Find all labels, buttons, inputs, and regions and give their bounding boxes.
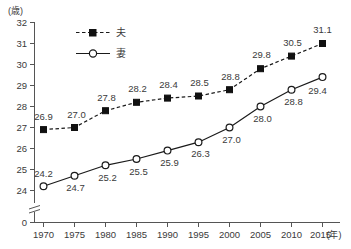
y-tick-label: 27 [16,122,27,133]
y-tick-label: 29 [16,80,27,91]
x-tick-label: 2005 [250,229,271,240]
husband-marker [289,53,295,59]
legend-item-wife[interactable]: 妻 [76,47,126,59]
chart-canvas: (歳) 32 31 30 29 28 [0,0,351,249]
husband-marker [320,41,326,47]
wife-marker [133,156,140,163]
wife-marker [71,172,78,179]
wife-data-label: 25.2 [98,172,117,183]
line-chart: (歳) 32 31 30 29 28 [0,0,351,249]
legend-husband-label: 夫 [116,27,126,38]
y-tick-label: 32 [16,17,27,28]
wife-marker [226,124,233,131]
series-wife: 24.2 24.7 25.2 25.5 25.9 26.3 27.0 28.0 … [34,74,327,193]
y-tick-label: 25 [16,164,27,175]
wife-marker [102,162,109,169]
wife-marker [288,86,295,93]
x-tick-label: 1990 [157,229,178,240]
husband-data-label: 30.5 [283,37,302,48]
wife-data-label: 28.0 [253,113,272,124]
y-axis-ticks [30,23,35,223]
wife-marker [257,103,264,110]
y-axis-tick-labels: 32 31 30 29 28 27 26 25 24 0 [16,17,27,228]
legend-wife-label: 妻 [116,47,126,59]
husband-data-label: 28.4 [159,79,178,90]
wife-data-label: 26.3 [191,148,210,159]
husband-marker [227,87,233,93]
x-tick-label: 2010 [281,229,302,240]
husband-marker [41,127,47,133]
husband-marker [196,93,202,99]
husband-marker [258,66,264,72]
x-axis-unit-label: (年) [327,229,342,240]
husband-data-label: 28.5 [190,77,209,88]
husband-data-label: 26.9 [34,111,53,122]
legend-item-husband[interactable]: 夫 [76,27,126,38]
wife-marker [40,183,47,190]
husband-data-label: 31.1 [313,24,332,35]
y-tick-label: 28 [16,101,27,112]
y-tick-label: 26 [16,143,27,154]
wife-marker [164,147,171,154]
husband-marker [103,108,109,114]
x-tick-label: 1975 [64,229,85,240]
y-tick-label: 24 [16,185,27,196]
legend-wife-marker [89,50,96,57]
wife-marker [319,74,326,81]
x-axis-tick-labels: 1970 1975 1980 1985 1990 1995 2000 2005 … [33,229,331,240]
wife-data-label: 28.8 [284,96,303,107]
husband-marker [134,99,140,105]
husband-marker [72,125,78,131]
x-tick-label: 1995 [188,229,209,240]
husband-data-label: 27.8 [97,92,116,103]
husband-data-label: 28.2 [128,83,147,94]
x-tick-label: 1970 [33,229,54,240]
x-axis-ticks [44,223,323,228]
wife-data-label: 25.9 [160,157,179,168]
y-tick-label: 31 [16,38,27,49]
wife-data-label: 24.7 [66,182,85,193]
legend-husband-marker [90,30,97,37]
y-tick-label-zero: 0 [22,217,27,228]
husband-data-label: 27.0 [67,109,86,120]
x-tick-label: 1985 [126,229,147,240]
wife-data-label: 27.0 [222,134,241,145]
x-tick-label: 2000 [219,229,240,240]
wife-marker [195,139,202,146]
wife-line [44,77,323,186]
axis-break-mark-upper [29,206,40,210]
wife-data-label: 25.5 [129,166,148,177]
chart-legend: 夫 妻 [76,27,126,59]
wife-data-label: 29.4 [308,85,327,96]
husband-data-label: 29.8 [252,49,271,60]
x-tick-label: 1980 [95,229,116,240]
husband-data-label: 28.8 [221,71,240,82]
y-axis-unit-label: (歳) [8,5,23,16]
husband-marker [165,95,171,101]
series-husband: 26.9 27.0 27.8 28.2 28.4 28.5 28.8 29.8 … [34,24,332,133]
wife-data-label: 24.2 [34,168,53,179]
y-tick-label: 30 [16,59,27,70]
